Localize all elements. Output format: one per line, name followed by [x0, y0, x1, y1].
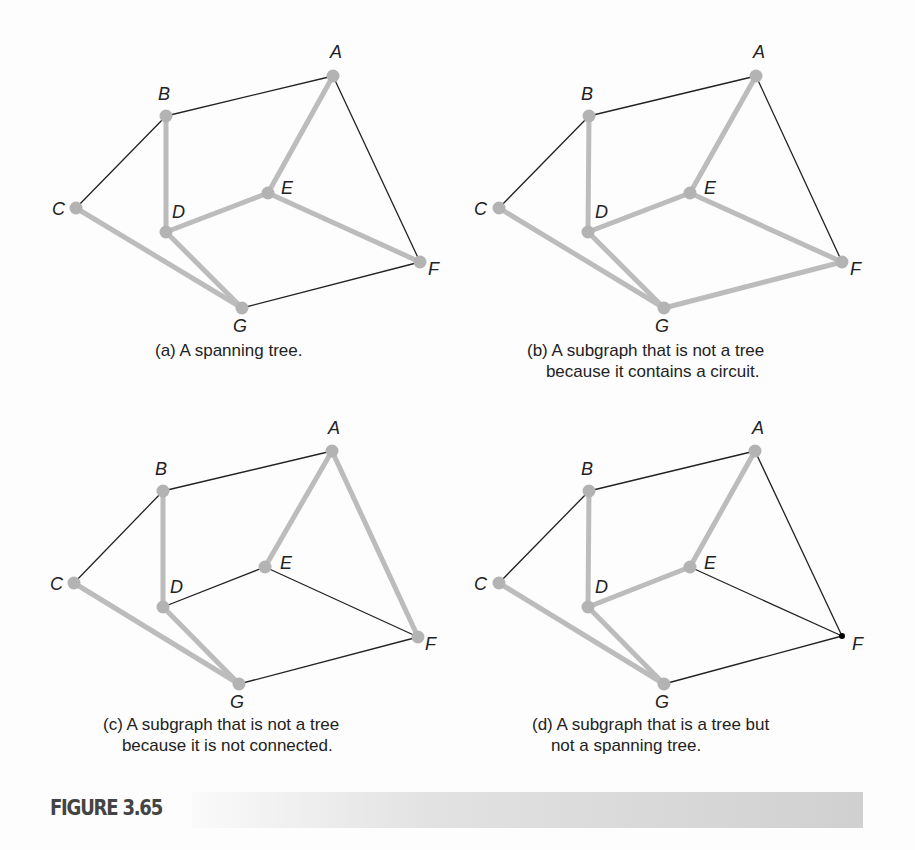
vertex-label-F: F	[425, 634, 437, 654]
graph-edge-GF	[239, 637, 418, 684]
caption-line: (a) A spanning tree.	[155, 340, 302, 361]
vertex-label-B: B	[158, 84, 170, 104]
caption-d: (d) A subgraph that is a tree but not a …	[532, 714, 769, 756]
vertex-label-D: D	[170, 577, 183, 597]
vertex-C	[70, 202, 83, 215]
vertex-label-G: G	[655, 692, 669, 712]
vertex-C	[68, 577, 81, 590]
graph-edge-AF	[755, 451, 842, 636]
subgraph-edge-EF	[268, 193, 420, 262]
vertex-C	[493, 577, 506, 590]
subgraph-edge-CG	[499, 208, 664, 308]
caption-line: because it is not connected.	[103, 735, 339, 756]
vertex-E	[684, 561, 697, 574]
vertex-label-G: G	[655, 316, 669, 336]
vertex-D	[582, 601, 595, 614]
graph-edge-EF	[690, 567, 842, 636]
vertex-label-B: B	[155, 459, 167, 479]
vertex-A	[327, 70, 340, 83]
panel-b: ABCDEFG	[474, 42, 862, 336]
caption-line: (b) A subgraph that is not a tree	[527, 340, 764, 361]
figure-title-bar	[192, 792, 863, 828]
vertex-E	[259, 561, 272, 574]
vertex-G	[658, 678, 671, 691]
vertex-D	[582, 226, 595, 239]
vertex-F	[839, 633, 845, 639]
subgraph-edge-AE	[690, 76, 756, 193]
caption-line: not a spanning tree.	[532, 735, 769, 756]
panel-d: ABCDEFG	[474, 418, 864, 712]
vertex-label-E: E	[704, 178, 717, 198]
graph-edge-AF	[333, 76, 420, 262]
vertex-label-C: C	[474, 199, 488, 219]
caption-c: (c) A subgraph that is not a tree becaus…	[103, 714, 339, 756]
graph-edge-BC	[499, 116, 589, 208]
caption-line: because it contains a circuit.	[527, 361, 764, 382]
vertex-G	[658, 302, 671, 315]
vertex-A	[750, 70, 763, 83]
vertex-G	[236, 302, 249, 315]
vertex-B	[160, 110, 173, 123]
vertex-B	[583, 110, 596, 123]
vertex-label-B: B	[581, 84, 593, 104]
vertex-label-D: D	[172, 202, 185, 222]
subgraph-edge-CG	[74, 583, 239, 684]
vertex-G	[233, 678, 246, 691]
subgraph-edge-AE	[268, 76, 333, 193]
vertex-D	[157, 601, 170, 614]
subgraph-edge-AE	[265, 451, 332, 567]
vertex-label-F: F	[850, 259, 862, 279]
panel-a: ABCDEFG	[52, 42, 440, 336]
caption-a: (a) A spanning tree.	[155, 340, 302, 361]
graph-edge-EF	[265, 567, 418, 637]
subgraph-edge-EF	[690, 193, 842, 262]
panel-c: ABCDEFG	[50, 418, 437, 712]
vertex-label-A: A	[751, 418, 764, 438]
vertex-B	[583, 485, 596, 498]
graph-edge-BA	[589, 76, 756, 116]
graph-edge-BC	[74, 491, 163, 583]
vertex-F	[414, 256, 427, 269]
vertex-label-A: A	[329, 42, 342, 62]
subgraph-edge-CG	[76, 208, 242, 308]
vertex-label-B: B	[581, 459, 593, 479]
graph-edge-BA	[166, 76, 333, 116]
vertex-label-G: G	[233, 316, 247, 336]
vertex-label-D: D	[595, 577, 608, 597]
vertex-label-G: G	[230, 692, 244, 712]
graph-edge-GF	[242, 262, 420, 308]
vertex-label-C: C	[50, 574, 64, 594]
vertex-label-A: A	[327, 418, 340, 438]
vertex-label-F: F	[428, 259, 440, 279]
vertex-D	[160, 226, 173, 239]
graph-edge-BC	[76, 116, 166, 208]
subgraph-edge-GF	[664, 262, 842, 308]
caption-b: (b) A subgraph that is not a tree becaus…	[527, 340, 764, 382]
vertex-B	[157, 485, 170, 498]
graph-edge-BA	[589, 451, 755, 491]
vertex-A	[749, 445, 762, 458]
vertex-A	[326, 445, 339, 458]
subgraph-edge-CG	[499, 583, 664, 684]
vertex-label-F: F	[852, 634, 864, 654]
subgraph-edge-AE	[690, 451, 755, 567]
vertex-F	[836, 256, 849, 269]
vertex-E	[684, 187, 697, 200]
vertex-label-E: E	[280, 553, 293, 573]
vertex-label-E: E	[704, 553, 717, 573]
figure-number: FIGURE 3.65	[50, 795, 162, 820]
subgraph-edge-BD	[588, 491, 589, 607]
vertex-label-E: E	[281, 178, 294, 198]
vertex-E	[262, 187, 275, 200]
subgraph-edge-BD	[588, 116, 589, 232]
graph-edge-AF	[756, 76, 842, 262]
caption-line: (d) A subgraph that is a tree but	[532, 714, 769, 735]
subgraph-edge-AF	[332, 451, 418, 637]
vertex-label-D: D	[595, 202, 608, 222]
graph-edge-GF	[664, 636, 842, 684]
vertex-label-C: C	[474, 574, 488, 594]
vertex-label-C: C	[52, 199, 66, 219]
vertex-C	[493, 202, 506, 215]
caption-line: (c) A subgraph that is not a tree	[103, 714, 339, 735]
graph-edge-BA	[163, 451, 332, 491]
